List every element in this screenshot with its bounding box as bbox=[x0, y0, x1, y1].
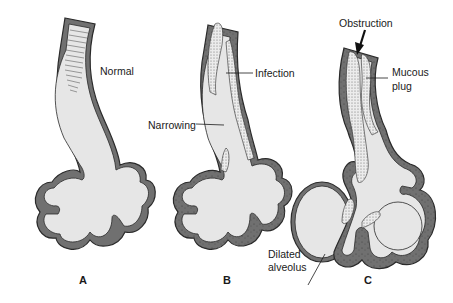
label-dilated: Dilated bbox=[268, 248, 301, 260]
panel-letter-a: A bbox=[79, 274, 87, 286]
panel-a-normal-bronchiole bbox=[36, 18, 156, 249]
obstruction-arrow-shaft bbox=[360, 30, 365, 46]
panel-letter-c: C bbox=[364, 274, 372, 286]
panel-letter-b: B bbox=[223, 274, 231, 286]
label-obstruction: Obstruction bbox=[339, 17, 393, 29]
bronchiole-diagram bbox=[0, 0, 453, 303]
label-mucous: Mucous bbox=[392, 66, 429, 78]
label-narrowing: Narrowing bbox=[148, 119, 196, 131]
label-infection: Infection bbox=[255, 67, 295, 79]
label-normal: Normal bbox=[100, 65, 134, 77]
panel-b-infected-bronchiole bbox=[174, 23, 292, 249]
right-alveolus-lumen bbox=[374, 202, 422, 250]
label-alveolus: alveolus bbox=[268, 261, 307, 273]
label-plug: plug bbox=[392, 80, 412, 92]
